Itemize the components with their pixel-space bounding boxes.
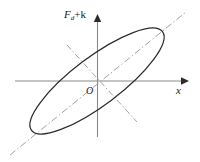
y-axis-arrowhead [94,14,101,22]
x-axis-label: x [176,85,181,96]
origin-label: O [86,86,93,96]
y-axis-label-tail: +k [74,8,86,20]
minor-axis-dashdot-line [67,45,137,122]
x-axis-arrowhead [181,77,189,85]
figure-container: Fd+k x O [0,0,200,162]
y-axis-label: Fd+k [64,9,86,20]
figure-canvas [0,0,200,162]
y-axis-label-subscript: d [71,14,75,22]
y-axis-label-main: F [64,8,71,20]
